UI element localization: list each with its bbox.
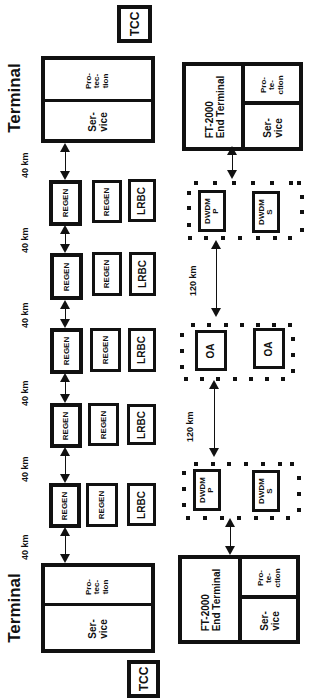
span-label-6: 40 km [20, 530, 30, 560]
ft2000-top-name: FT-2000 End Terminal [186, 66, 243, 147]
terminal-bottom: Pro- tec- tion Ser- vice [41, 563, 155, 653]
terminal-top-protection-label: Pro- tec- tion [85, 73, 110, 89]
dwdm-bottom-p-label: DWDM P [199, 477, 216, 503]
span-label-3: 40 km [20, 298, 30, 328]
regen-a-label: REGEN [62, 337, 70, 365]
regen-a-site-5: REGEN [49, 483, 81, 528]
ft2000-bottom-protection: Pro- te- ction [244, 559, 296, 597]
lrbc-label: LRBC [136, 491, 147, 519]
regen-b-label: REGEN [99, 410, 107, 438]
terminal-bottom-service-label: Ser- vice [88, 619, 109, 638]
ft2000-bottom-protection-label: Pro- te- ction [257, 568, 282, 587]
regen-a-site-4: REGEN [50, 403, 82, 448]
span-120-label-1: 120 km [188, 260, 198, 296]
tcc-bottom-label: TCC [137, 667, 150, 692]
dwdm-top-p-label: DWDM P [204, 198, 221, 224]
span-label-1: 40 km [20, 148, 30, 178]
dwdm-bottom-s: DWDM S [252, 470, 280, 512]
ft2000-bottom-name-label: FT-2000 End Terminal [201, 568, 222, 631]
lrbc-site-5: LRBC [127, 483, 156, 526]
terminal-bottom-protection: Pro- tec- tion [45, 567, 151, 607]
regen-b-site-4: REGEN [88, 403, 119, 446]
dwdm-top-s-label: DWDM S [258, 199, 275, 225]
ft2000-bottom-vdivider [238, 555, 242, 644]
oa-b: OA [253, 328, 285, 369]
terminal-top-service: Ser- vice [45, 104, 151, 139]
terminal-top-protection: Pro- tec- tion [45, 60, 151, 102]
ft2000-top-service-label: Ser- vice [263, 118, 284, 137]
tcc-top-label: TCC [128, 12, 141, 37]
ft2000-top-hdivider [243, 101, 303, 105]
regen-b-label: REGEN [101, 336, 109, 364]
regen-a-site-2: REGEN [50, 253, 83, 300]
regen-a-label: REGEN [61, 189, 69, 217]
oa-a: OA [195, 330, 227, 371]
terminal-top-title: Terminal [5, 63, 25, 133]
dwdm-top-s: DWDM S [252, 191, 280, 233]
ft2000-top-vdivider [241, 62, 245, 151]
regen-b-label: REGEN [103, 187, 111, 215]
regen-b-site-5: REGEN [86, 483, 118, 527]
span-label-2: 40 km [20, 223, 30, 253]
regen-a-site-3: REGEN [50, 328, 83, 374]
lrbc-label: LRBC [137, 336, 148, 364]
tcc-bottom: TCC [127, 660, 160, 698]
lrbc-label: LRBC [136, 411, 147, 439]
dwdm-top-p: DWDM P [198, 190, 226, 232]
regen-b-site-3: REGEN [90, 328, 121, 372]
dwdm-bottom-p: DWDM P [193, 469, 221, 511]
lrbc-site-3: LRBC [128, 328, 156, 372]
lrbc-site-2: LRBC [129, 252, 156, 296]
terminal-top-divider [41, 99, 155, 102]
span-120-label-2: 120 km [185, 406, 195, 442]
lrbc-site-1: LRBC [128, 179, 156, 222]
regen-b-site-2: REGEN [92, 252, 122, 296]
ft2000-top-protection: Pro- te- ction [247, 66, 299, 104]
terminal-bottom-title: Terminal [5, 573, 25, 643]
ft2000-bottom-name: FT-2000 End Terminal [182, 559, 240, 640]
regen-a-label: REGEN [62, 262, 70, 290]
oa-b-label: OA [264, 341, 275, 356]
regen-a-site-1: REGEN [49, 180, 82, 226]
regen-a-label: REGEN [61, 491, 69, 519]
lrbc-label: LRBC [137, 260, 148, 288]
terminal-bottom-divider [41, 603, 155, 606]
ft2000-top-name-label: FT-2000 End Terminal [204, 75, 225, 138]
regen-b-label: REGEN [103, 260, 111, 288]
regen-b-label: REGEN [98, 491, 106, 519]
ft2000-bottom-service: Ser- vice [244, 601, 296, 640]
ft2000-top-protection-label: Pro- te- ction [260, 75, 285, 94]
oa-a-label: OA [206, 343, 217, 358]
terminal-bottom-service: Ser- vice [45, 609, 151, 649]
tcc-top: TCC [117, 5, 152, 43]
terminal-top-service-label: Ser- vice [88, 112, 109, 131]
span-label-4: 40 km [20, 376, 30, 406]
dwdm-bottom-s-label: DWDM S [258, 478, 275, 504]
regen-a-label: REGEN [62, 411, 70, 439]
span-label-5: 40 km [20, 452, 30, 482]
regen-b-site-1: REGEN [92, 180, 122, 223]
ft2000-bottom-service-label: Ser- vice [260, 611, 281, 630]
terminal-bottom-protection-label: Pro- tec- tion [85, 579, 110, 595]
ft2000-bottom-hdivider [240, 595, 300, 599]
ft2000-top-service: Ser- vice [247, 108, 299, 147]
lrbc-label: LRBC [137, 187, 148, 215]
lrbc-site-4: LRBC [127, 404, 156, 445]
